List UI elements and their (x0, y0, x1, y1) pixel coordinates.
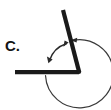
interior-angle-arrowhead-upper-icon (63, 41, 68, 47)
interior-angle-arc (47, 41, 69, 64)
angle-diagram-figure: C. (0, 0, 111, 110)
angle-diagram-svg (0, 0, 111, 110)
figure-label: C. (5, 38, 20, 53)
interior-angle-arrowhead-lower-icon (47, 57, 53, 64)
angle-vertex (77, 70, 81, 74)
